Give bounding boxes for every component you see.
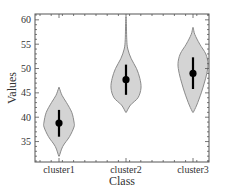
x-tick-label: cluster3 (177, 164, 209, 175)
y-tick-label: 55 (21, 39, 31, 50)
y-tick-label: 45 (21, 87, 31, 98)
x-axis-label: Class (109, 174, 135, 188)
median-dot (122, 76, 129, 83)
median-dot (55, 119, 62, 126)
violins-group (44, 17, 208, 156)
y-tick-label: 50 (21, 63, 31, 74)
violin-cluster2 (111, 17, 141, 112)
chart-svg: 354045505560 cluster1cluster2cluster3 Cl… (0, 0, 225, 193)
y-tick-label: 40 (21, 112, 31, 123)
median-dot (189, 70, 196, 77)
y-tick-label: 60 (21, 14, 31, 25)
violin-cluster1 (44, 87, 75, 156)
y-axis-label: Values (5, 72, 19, 104)
violin-cluster3 (178, 27, 208, 112)
x-tick-label: cluster1 (43, 164, 75, 175)
violin-chart: 354045505560 cluster1cluster2cluster3 Cl… (0, 0, 225, 193)
y-tick-label: 35 (21, 136, 31, 147)
